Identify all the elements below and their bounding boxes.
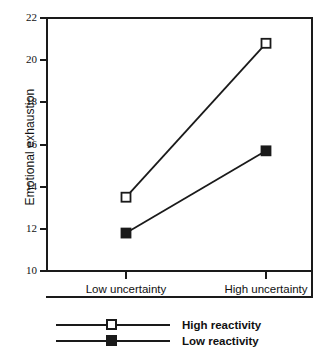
chart-figure: Emotional exhaustion 10121416182022 Low … [0, 0, 330, 357]
legend-entry-low-reactivity: Low reactivity [56, 334, 266, 349]
series-line [126, 151, 266, 233]
series-line [126, 43, 266, 197]
plot-area [0, 0, 330, 357]
legend-entry-high-reactivity: High reactivity [56, 318, 266, 333]
filled-square-marker-icon [262, 146, 271, 155]
filled-square-marker-icon [122, 229, 131, 238]
legend-label: High reactivity [182, 318, 261, 332]
filled-square-marker-icon [106, 335, 117, 346]
open-square-marker-icon [262, 39, 271, 48]
open-square-marker-icon [122, 193, 131, 202]
legend-label: Low reactivity [182, 334, 259, 348]
chart-legend: High reactivity Low reactivity [56, 318, 266, 352]
open-square-marker-icon [106, 319, 117, 330]
